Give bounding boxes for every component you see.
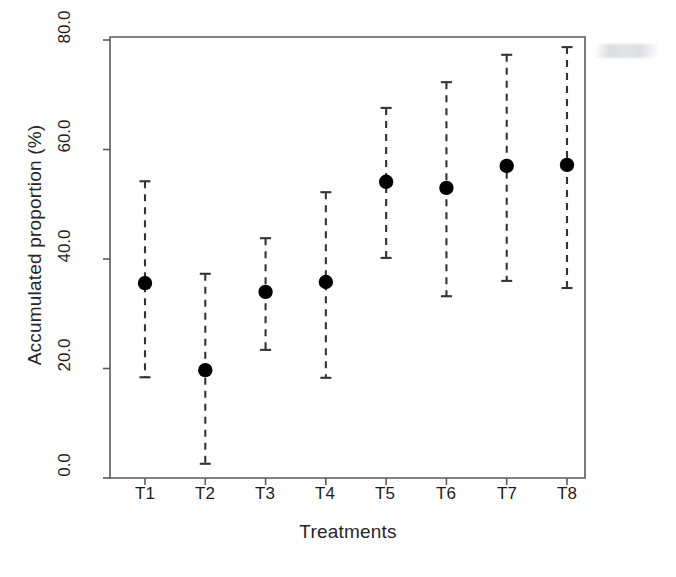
- y-axis-title: Accumulated proportion (%): [18, 10, 52, 480]
- chart-figure: Accumulated proportion (%) Treatments 0.…: [0, 0, 676, 577]
- axis-ticks: [103, 40, 567, 485]
- x-tick-label-t1: T1: [125, 484, 165, 504]
- x-tick-label-t3: T3: [245, 484, 285, 504]
- data-point-group-t1: [138, 181, 152, 377]
- axis-frame: [110, 37, 585, 478]
- y-tick-label-0: 0.0: [55, 442, 75, 488]
- data-point-marker: [379, 175, 393, 189]
- data-point-marker: [198, 363, 212, 377]
- y-tick-label-3: 60.0: [55, 113, 75, 159]
- data-point-group-t7: [500, 55, 514, 281]
- x-axis-title: Treatments: [110, 521, 586, 543]
- x-tick-label-t5: T5: [365, 484, 405, 504]
- data-point-group-t8: [560, 47, 574, 288]
- data-point-marker: [560, 158, 574, 172]
- data-point-marker: [500, 159, 514, 173]
- data-point-group-t3: [258, 238, 272, 350]
- data-point-group-t2: [198, 274, 212, 464]
- x-tick-label-t7: T7: [487, 484, 527, 504]
- y-tick-label-4: 80.0: [55, 4, 75, 50]
- data-point-marker: [138, 276, 152, 290]
- x-tick-label-t4: T4: [305, 484, 345, 504]
- data-point-group-t6: [439, 82, 453, 296]
- data-point-group-t4: [319, 192, 333, 378]
- y-tick-label-1: 20.0: [55, 332, 75, 378]
- y-tick-label-2: 40.0: [55, 223, 75, 269]
- x-tick-label-t2: T2: [185, 484, 225, 504]
- data-point-marker: [439, 181, 453, 195]
- data-series-layer: [138, 47, 574, 464]
- data-point-marker: [258, 285, 272, 299]
- x-tick-label-t6: T6: [426, 484, 466, 504]
- data-point-marker: [319, 275, 333, 289]
- x-tick-label-t8: T8: [547, 484, 587, 504]
- data-point-group-t5: [379, 108, 393, 258]
